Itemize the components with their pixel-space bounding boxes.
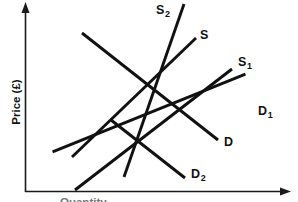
curve-label-s1-sub: 1	[247, 61, 252, 71]
curve-label-s1: S1	[238, 56, 252, 69]
x-axis-title: Quantity	[60, 196, 107, 202]
chart-plot-area	[0, 0, 298, 202]
x-axis-arrow-icon	[280, 188, 291, 196]
y-axis-title: Price (£)	[10, 62, 22, 142]
curve-label-d1-base: D	[258, 104, 267, 118]
demand-curve-d2	[111, 120, 185, 178]
curve-label-s2: S2	[156, 4, 170, 17]
y-axis-arrow-icon	[22, 2, 30, 13]
curve-label-d2-sub: 2	[201, 173, 206, 183]
curve-label-d-base: D	[224, 135, 233, 149]
curve-label-s-base: S	[200, 28, 209, 42]
curve-label-s2-base: S	[156, 3, 165, 17]
curve-label-d2: D2	[191, 168, 205, 181]
axis-group	[22, 2, 292, 196]
curve-label-d1: D1	[258, 105, 272, 118]
supply-demand-chart: S2 S S1 D1 D D2 Price (£) Quantity	[0, 0, 298, 202]
curve-label-d2-base: D	[191, 167, 200, 181]
curve-label-d: D	[224, 136, 233, 149]
supply-curve-s1	[75, 69, 232, 190]
curve-label-s1-base: S	[238, 55, 247, 69]
demand-curve-d	[82, 33, 218, 140]
curve-label-d1-sub: 1	[268, 110, 273, 120]
curve-label-s: S	[200, 29, 209, 42]
curve-label-s2-sub: 2	[165, 9, 170, 19]
